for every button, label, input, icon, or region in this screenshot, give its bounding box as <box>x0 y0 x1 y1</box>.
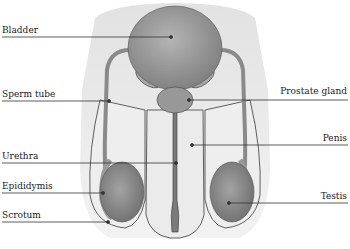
label-penis: Penis <box>323 133 347 143</box>
label-sperm-tube: Sperm tube <box>2 89 55 99</box>
bladder-shape <box>128 6 222 90</box>
testis-left-shape <box>100 162 144 222</box>
label-epididymis: Epididymis <box>2 181 53 191</box>
testis-right-shape <box>210 162 254 222</box>
label-scrotum: Scrotum <box>2 210 41 220</box>
label-bladder: Bladder <box>2 25 38 35</box>
label-prostate-gland: Prostate gland <box>280 86 347 96</box>
label-urethra: Urethra <box>2 151 38 161</box>
label-testis: Testis <box>321 191 347 201</box>
reproductive-diagram: Bladder Sperm tube Urethra Epididymis Sc… <box>0 0 350 249</box>
anatomy-illustration <box>0 0 350 249</box>
